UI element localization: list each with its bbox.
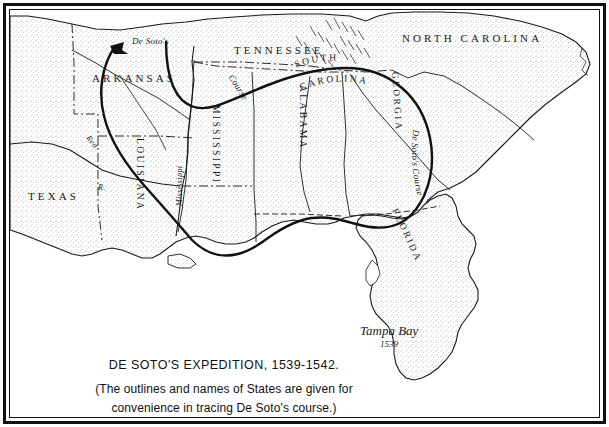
state-label-tennessee: TENNESSEE: [234, 44, 324, 56]
place-year-tampa-bay: 1539: [380, 339, 399, 349]
state-label-north-carolina: NORTH CAROLINA: [402, 32, 542, 44]
state-label-louisiana: LOUISIANA: [135, 138, 145, 211]
caption-subtitle-line-1: (The outlines and names of States are gi…: [34, 380, 414, 399]
map-figure: TEXAS ARKANSAS TENNESSEE NORTH CAROLINA …: [0, 0, 609, 427]
river-label-red-abbrev: R.: [97, 183, 106, 192]
place-label-tampa-bay: Tampa Bay: [360, 323, 419, 338]
map-caption: DE SOTO'S EXPEDITION, 1539-1542. (The ou…: [34, 358, 414, 417]
state-label-arkansas: ARKANSAS: [92, 72, 176, 84]
state-label-texas: TEXAS: [28, 190, 79, 202]
state-label-mississippi: MISSISSIPPI: [211, 105, 221, 184]
map-drawing: TEXAS ARKANSAS TENNESSEE NORTH CAROLINA …: [10, 10, 599, 417]
state-label-alabama: ALABAMA: [298, 85, 308, 150]
route-label-west: De Soto's: [131, 36, 169, 46]
map-plate: TEXAS ARKANSAS TENNESSEE NORTH CAROLINA …: [10, 10, 599, 417]
land-florida-peninsula: [356, 194, 478, 380]
river-label-mississippi: Mississippi: [175, 166, 184, 207]
caption-subtitle-line-2: convenience in tracing De Soto's course.…: [34, 399, 414, 417]
caption-title: DE SOTO'S EXPEDITION, 1539-1542.: [34, 358, 414, 372]
